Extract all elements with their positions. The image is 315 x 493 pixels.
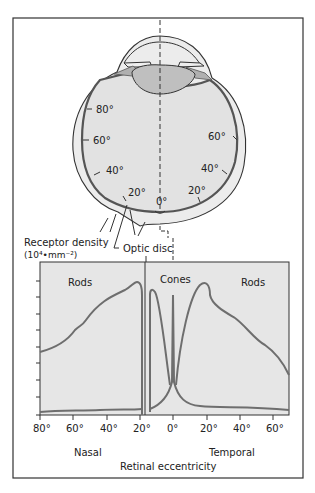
eye-label-nasal-40: 40°	[106, 165, 124, 176]
fovea-connector	[160, 226, 168, 238]
x-tick-label: 40°	[100, 423, 118, 434]
eye-label-nasal-80: 80°	[96, 104, 114, 115]
iris-right	[178, 62, 204, 67]
x-axis-label: Retinal eccentricity	[120, 461, 216, 472]
x-tick-label: 20°	[133, 423, 151, 434]
eye-diagram: 80° 60° 40° 20° 60° 40° 20° 0°	[73, 36, 246, 236]
rods-temporal-label: Rods	[241, 277, 265, 288]
y-axis-units: (10⁴•mm⁻²)	[24, 250, 77, 260]
temporal-label: Temporal	[208, 447, 255, 458]
optic-disc-label: Optic disc	[123, 243, 172, 254]
x-tick-label: 60°	[66, 423, 84, 434]
eye-label-nasal-20: 20°	[128, 187, 146, 198]
eye-label-temporal-20: 20°	[188, 185, 206, 196]
eye-label-temporal-40: 40°	[201, 163, 219, 174]
eye-label-nasal-60: 60°	[93, 135, 111, 146]
density-chart: Rods Cones Rods 80° 60° 40° 20° 0° 20° 4…	[33, 262, 289, 472]
y-ticks	[36, 281, 40, 415]
rods-nasal-label: Rods	[68, 277, 92, 288]
x-tick-label: 80°	[33, 423, 51, 434]
x-tick-label: 60°	[266, 423, 284, 434]
x-ticks	[40, 415, 273, 420]
x-tick-label: 0°	[167, 423, 178, 434]
y-axis-label: Receptor density	[24, 237, 109, 248]
nasal-label: Nasal	[74, 447, 102, 458]
eye-label-center-0: 0°	[156, 196, 167, 207]
eye-label-temporal-60: 60°	[208, 131, 226, 142]
x-tick-label: 20°	[200, 423, 218, 434]
figure-canvas: 80° 60° 40° 20° 60° 40° 20° 0° Optic dis…	[0, 0, 315, 493]
x-tick-label: 40°	[233, 423, 251, 434]
cones-label: Cones	[160, 274, 191, 285]
